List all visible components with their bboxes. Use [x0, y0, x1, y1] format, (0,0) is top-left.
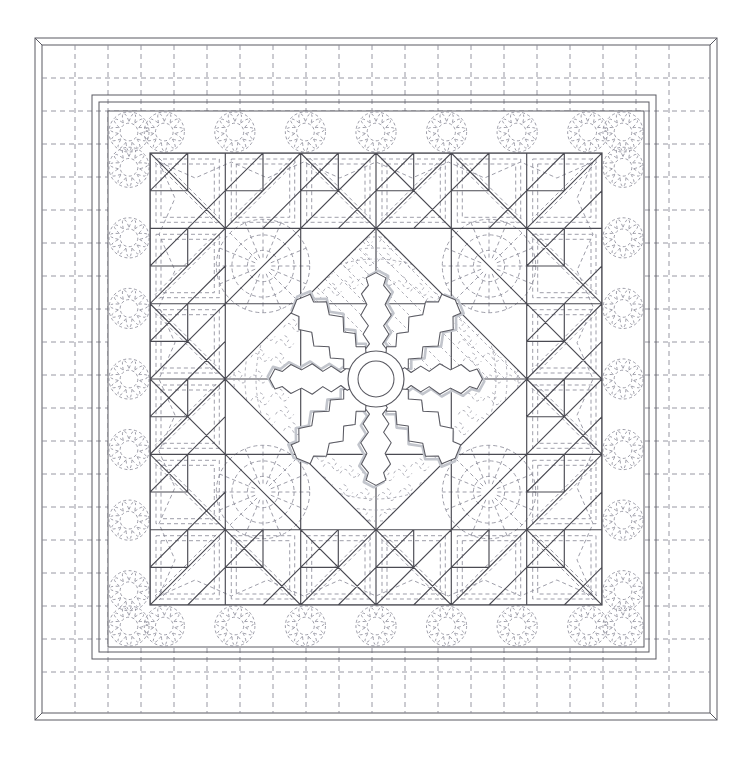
quilt-pattern-drawing [0, 0, 749, 762]
applique-medallion [268, 271, 485, 488]
quilt-diagram-canvas [0, 0, 749, 762]
medallion-hub-inner [358, 361, 394, 397]
